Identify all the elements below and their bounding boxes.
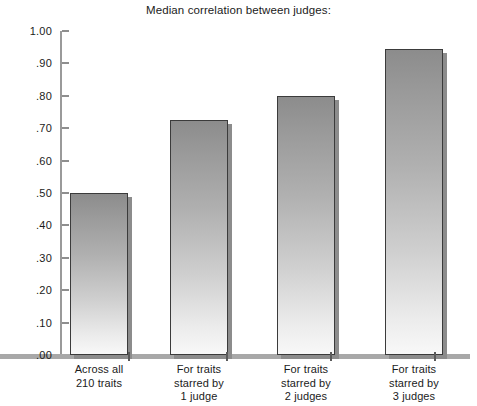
y-axis-tick-label: .30 (2, 252, 52, 264)
category-tick-mark (128, 352, 130, 361)
y-axis-tick-mark (62, 192, 69, 194)
y-axis-tick-label: .80 (2, 90, 52, 102)
category-label: For traitsstarred by3 judges (354, 363, 474, 404)
bar-body (277, 96, 335, 355)
bar-body (170, 120, 228, 355)
bar (70, 193, 133, 355)
bar-body (70, 193, 128, 355)
bar (385, 49, 448, 355)
category-tick-mark (226, 352, 228, 361)
category-label-line: starred by (354, 377, 474, 391)
category-label: For traitsstarred by1 judge (139, 363, 259, 404)
y-axis-tick-mark (62, 224, 69, 226)
y-axis-tick-mark (62, 257, 69, 259)
y-axis-tick-label: .00 (2, 349, 52, 361)
category-label-line: 3 judges (354, 390, 474, 404)
y-axis-tick-label: .60 (2, 155, 52, 167)
y-axis-tick-label: .90 (2, 57, 52, 69)
y-axis-tick-label: .50 (2, 187, 52, 199)
category-label-line: starred by (139, 377, 259, 391)
category-tick-mark (330, 352, 332, 361)
y-axis-tick-label: .70 (2, 122, 52, 134)
category-tick-mark (434, 352, 436, 361)
bar (170, 120, 233, 355)
plot-area: 1.00.90.80.70.60.50.40.30.20.10.00 Acros… (0, 0, 477, 406)
category-label-line: For traits (246, 363, 366, 377)
category-label: For traitsstarred by2 judges (246, 363, 366, 404)
bar-chart-figure: Median correlation between judges: 1.00.… (0, 0, 477, 406)
y-axis-tick-mark (62, 322, 69, 324)
y-axis-tick-label: .20 (2, 284, 52, 296)
y-axis-tick-mark (62, 30, 69, 32)
category-label-line: For traits (354, 363, 474, 377)
category-label-line: For traits (139, 363, 259, 377)
y-axis-tick-mark (62, 127, 69, 129)
category-label-line: 2 judges (246, 390, 366, 404)
y-axis-tick-mark (62, 62, 69, 64)
y-axis-tick-label: 1.00 (2, 25, 52, 37)
bar (277, 96, 340, 355)
y-axis-tick-label: .10 (2, 317, 52, 329)
category-label-line: starred by (246, 377, 366, 391)
y-axis-tick-label: .40 (2, 219, 52, 231)
y-axis-tick-mark (62, 289, 69, 291)
y-axis-tick-mark (62, 95, 69, 97)
category-label-line: 1 judge (139, 390, 259, 404)
bar-body (385, 49, 443, 355)
y-axis-tick-mark (62, 160, 69, 162)
